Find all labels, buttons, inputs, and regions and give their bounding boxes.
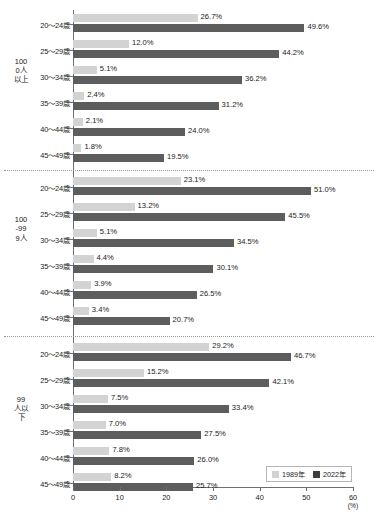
bar-value-label: 13.2% [138, 201, 160, 210]
x-axis-tick [120, 487, 121, 491]
bar-2022 [73, 379, 269, 387]
row-category-label: 20～24歳 [26, 19, 70, 30]
bar-value-label: 2.4% [87, 90, 104, 99]
bar-value-label: 49.6% [307, 22, 329, 31]
row-category-label: 25～29歳 [26, 208, 70, 219]
bar-2022 [73, 265, 213, 273]
bar-value-label: 23.1% [184, 175, 206, 184]
chart-row: 30～34歳5.1%36.2% [0, 63, 378, 89]
row-category-label: 45～49歳 [26, 149, 70, 160]
row-category-label: 40～44歳 [26, 286, 70, 297]
bar-value-label: 26.7% [201, 12, 223, 21]
x-axis-tick-label: 30 [198, 493, 228, 502]
legend-swatch-icon-2022 [313, 471, 320, 478]
row-category-label: 35～39歳 [26, 97, 70, 108]
bar-value-label: 3.4% [92, 305, 109, 314]
bar-value-label: 29.2% [212, 341, 234, 350]
bar-value-label: 44.2% [282, 48, 304, 57]
legend-label-2022: 2022年 [323, 469, 346, 479]
chart-row: 45～49歳1.8%19.5% [0, 141, 378, 167]
bar-value-label: 19.5% [167, 152, 189, 161]
bar-chart: 1000人以上20～24歳26.7%49.6%25～29歳12.0%44.2%3… [0, 0, 378, 520]
row-category-label: 40～44歳 [26, 123, 70, 134]
bar-2022 [73, 353, 291, 361]
group-separator [4, 336, 374, 337]
bar-value-label: 1.8% [84, 142, 101, 151]
x-axis-tick [306, 487, 307, 491]
bar-value-label: 27.5% [204, 429, 226, 438]
bar-1989 [73, 473, 111, 481]
bar-1989 [73, 421, 106, 429]
x-axis-tick-label: 60 [338, 493, 368, 502]
bar-2022 [73, 239, 234, 247]
row-category-label: 20～24歳 [26, 348, 70, 359]
bar-value-label: 42.1% [272, 377, 294, 386]
chart-row: 35～39歳4.4%30.1% [0, 252, 378, 278]
bar-value-label: 5.1% [100, 64, 117, 73]
bar-value-label: 7.5% [111, 393, 128, 402]
chart-row: 20～24歳29.2%46.7% [0, 340, 378, 366]
row-category-label: 20～24歳 [26, 182, 70, 193]
bar-value-label: 20.7% [173, 315, 195, 324]
bar-value-label: 8.2% [114, 471, 131, 480]
bar-2022 [73, 405, 229, 413]
legend-label-1989: 1989年 [282, 469, 305, 479]
bar-1989 [73, 447, 109, 455]
bar-1989 [73, 395, 108, 403]
bar-1989 [73, 92, 84, 100]
legend-item-2022: 2022年 [313, 469, 346, 479]
bar-1989 [73, 229, 97, 237]
bar-1989 [73, 40, 129, 48]
chart-row: 45～49歳3.4%20.7% [0, 304, 378, 330]
bar-2022 [73, 128, 185, 136]
bar-value-label: 25.7% [196, 481, 218, 490]
bar-2022 [73, 457, 194, 465]
bar-value-label: 51.0% [314, 185, 336, 194]
bar-value-label: 15.2% [147, 367, 169, 376]
bar-2022 [73, 24, 304, 32]
bar-1989 [73, 255, 94, 263]
bar-value-label: 5.1% [100, 227, 117, 236]
bar-value-label: 26.0% [197, 455, 219, 464]
bar-2022 [73, 317, 170, 325]
bar-value-label: 3.9% [94, 279, 111, 288]
bar-2022 [73, 50, 279, 58]
legend-item-1989: 1989年 [272, 469, 305, 479]
group-separator [4, 170, 374, 171]
chart-row: 25～29歳12.0%44.2% [0, 37, 378, 63]
bar-2022 [73, 213, 285, 221]
bar-2022 [73, 76, 242, 84]
bar-value-label: 45.5% [288, 211, 310, 220]
x-axis-tick-label: 50 [291, 493, 321, 502]
x-axis-tick [353, 487, 354, 491]
bar-2022 [73, 483, 193, 491]
bar-1989 [73, 281, 91, 289]
bar-1989 [73, 14, 198, 22]
bar-value-label: 2.1% [86, 116, 103, 125]
bar-value-label: 34.5% [237, 237, 259, 246]
legend-swatch-icon-1989 [272, 471, 279, 478]
bar-2022 [73, 154, 164, 162]
x-axis-tick [73, 487, 74, 491]
row-category-label: 30～34歳 [26, 234, 70, 245]
chart-row: 35～39歳7.0%27.5% [0, 418, 378, 444]
chart-row: 35～39歳2.4%31.2% [0, 89, 378, 115]
x-axis-tick-label: 0 [58, 493, 88, 502]
bar-1989 [73, 307, 89, 315]
x-axis-tick [260, 487, 261, 491]
bar-value-label: 7.0% [109, 419, 126, 428]
x-axis-tick-label: 40 [245, 493, 275, 502]
x-axis-tick-label: 10 [105, 493, 135, 502]
chart-row: 30～34歳7.5%33.4% [0, 392, 378, 418]
bar-1989 [73, 66, 97, 74]
chart-row: 30～34歳5.1%34.5% [0, 226, 378, 252]
bar-1989 [73, 343, 209, 351]
bar-1989 [73, 118, 83, 126]
bar-value-label: 31.2% [222, 100, 244, 109]
bar-1989 [73, 369, 144, 377]
bar-value-label: 33.4% [232, 403, 254, 412]
chart-row: 40～44歳3.9%26.5% [0, 278, 378, 304]
row-category-label: 25～29歳 [26, 374, 70, 385]
bar-value-label: 30.1% [216, 263, 238, 272]
row-category-label: 25～29歳 [26, 45, 70, 56]
